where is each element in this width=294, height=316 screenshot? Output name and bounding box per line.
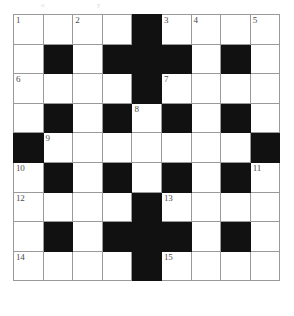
crossword-cell[interactable] [14,103,44,133]
cell-number: 14 [16,252,25,263]
crossword-block-cell [43,103,73,133]
crossword-block-cell [43,162,73,192]
cell-number: 4 [194,15,198,26]
crossword-cell[interactable] [73,133,103,163]
crossword-cell[interactable] [191,222,221,252]
cell-number: 2 [75,15,79,26]
crossword-block-cell [132,74,162,104]
crossword-cell[interactable] [191,162,221,192]
crossword-block-cell [102,103,132,133]
crossword-row: 9 [14,133,280,163]
crossword-cell[interactable] [73,162,103,192]
crossword-block-cell [250,133,280,163]
crossword-block-cell [161,162,191,192]
crossword-cell[interactable] [250,103,280,133]
crossword-cell[interactable] [250,44,280,74]
cell-number: 9 [46,133,50,144]
crossword-cell[interactable] [191,103,221,133]
crossword-cell[interactable] [73,251,103,281]
crossword-cell[interactable] [102,74,132,104]
crossword-cell[interactable] [250,251,280,281]
crossword-block-cell [161,103,191,133]
cell-number: 10 [16,163,25,174]
cell-number: 6 [16,74,20,85]
crossword-cell[interactable] [102,133,132,163]
crossword-cell[interactable] [73,192,103,222]
crossword-cell[interactable]: 12 [14,192,44,222]
crossword-row: 1213 [14,192,280,222]
crossword-cell[interactable] [191,44,221,74]
cell-number: 13 [164,193,173,204]
cell-number: 11 [253,163,261,174]
crossword-block-cell [132,44,162,74]
crossword-cell[interactable] [250,192,280,222]
crossword-cell[interactable]: 11 [250,162,280,192]
crossword-cell[interactable] [102,15,132,45]
crossword-block-cell [132,15,162,45]
crossword-row: 12345 [14,15,280,45]
crossword-block-cell [161,222,191,252]
crossword-cell[interactable]: 10 [14,162,44,192]
crossword-row [14,222,280,252]
crossword-block-cell [221,222,251,252]
scan-artifact: y [97,1,101,9]
crossword-block-cell [43,44,73,74]
crossword-cell[interactable]: 7 [161,74,191,104]
crossword-block-cell [132,251,162,281]
crossword-cell[interactable] [191,133,221,163]
crossword-cell[interactable] [14,222,44,252]
crossword-block-cell [221,162,251,192]
crossword-block-cell [102,162,132,192]
crossword-cell[interactable]: 14 [14,251,44,281]
crossword-cell[interactable]: 4 [191,15,221,45]
crossword-cell[interactable] [43,251,73,281]
crossword-cell[interactable]: 2 [73,15,103,45]
cell-number: 8 [134,104,138,115]
crossword-cell[interactable] [132,162,162,192]
crossword-cell[interactable]: 15 [161,251,191,281]
crossword-cell[interactable] [73,103,103,133]
crossword-cell[interactable] [191,74,221,104]
cell-number: 5 [253,15,257,26]
crossword-cell[interactable] [73,74,103,104]
crossword-block-cell [14,133,44,163]
scan-artifact: o [41,1,45,9]
crossword-block-cell [221,44,251,74]
crossword-cell[interactable] [102,251,132,281]
crossword-cell[interactable] [43,192,73,222]
crossword-cell[interactable] [73,222,103,252]
cell-number: 12 [16,193,25,204]
crossword-cell[interactable] [43,15,73,45]
crossword-block-cell [102,222,132,252]
crossword-cell[interactable]: 13 [161,192,191,222]
crossword-block-cell [43,222,73,252]
crossword-cell[interactable]: 1 [14,15,44,45]
crossword-grid[interactable]: 123456789101112131415 [13,14,280,281]
crossword-cell[interactable]: 6 [14,74,44,104]
crossword-cell[interactable] [132,133,162,163]
crossword-row: 1011 [14,162,280,192]
crossword-cell[interactable] [250,222,280,252]
crossword-cell[interactable] [221,251,251,281]
crossword-grid-body: 123456789101112131415 [14,15,280,281]
crossword-cell[interactable] [161,133,191,163]
crossword-cell[interactable] [73,44,103,74]
crossword-block-cell [221,103,251,133]
crossword-cell[interactable] [191,251,221,281]
crossword-cell[interactable] [221,15,251,45]
crossword-cell[interactable]: 8 [132,103,162,133]
crossword-cell[interactable] [43,74,73,104]
crossword-cell[interactable] [102,192,132,222]
crossword-cell[interactable]: 3 [161,15,191,45]
crossword-cell[interactable]: 5 [250,15,280,45]
crossword-cell[interactable] [250,74,280,104]
crossword-cell[interactable]: 9 [43,133,73,163]
scan-artifact-layer: oy [0,0,294,14]
crossword-cell[interactable] [14,44,44,74]
crossword-cell[interactable] [221,133,251,163]
cell-number: 3 [164,15,168,26]
crossword-row: 8 [14,103,280,133]
crossword-cell[interactable] [221,192,251,222]
crossword-cell[interactable] [191,192,221,222]
crossword-cell[interactable] [221,74,251,104]
